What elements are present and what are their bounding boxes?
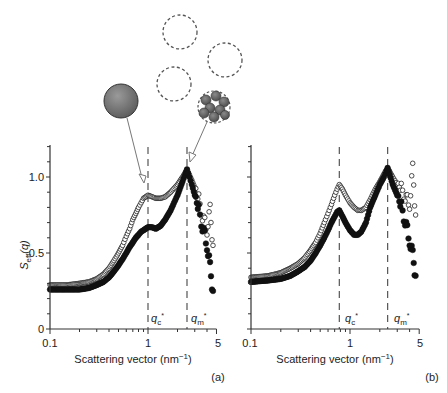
- panel-label-b: (b): [425, 371, 438, 383]
- ytick-label-1.0: 1.0: [29, 171, 44, 183]
- qc-label: qc*: [151, 312, 164, 327]
- y-axis-title: Seff(q): [18, 240, 33, 270]
- data-point: [202, 228, 208, 234]
- qm-label: qm*: [394, 312, 410, 327]
- data-point: [208, 202, 213, 207]
- particle-cluster: [198, 91, 230, 123]
- dashed-circle-top: [163, 15, 197, 49]
- xtick-label-5: 5: [215, 337, 221, 349]
- data-point: [396, 193, 402, 199]
- ytick-label-0: 0: [38, 323, 44, 335]
- data-point: [210, 238, 215, 243]
- panel-label-a: (a): [211, 371, 224, 383]
- xtick-label-0.1: 0.1: [42, 337, 57, 349]
- panel-b-marks: [248, 147, 418, 329]
- data-point: [203, 215, 208, 220]
- data-point: [400, 208, 406, 214]
- data-point: [413, 213, 418, 218]
- data-point: [193, 194, 199, 200]
- xtick-label-5: 5: [417, 337, 423, 349]
- data-point: [410, 161, 415, 166]
- arrow-cluster-to-qm: [189, 122, 207, 162]
- data-point: [197, 212, 203, 218]
- data-point: [408, 194, 413, 199]
- data-point: [410, 247, 416, 253]
- xtick-label-1: 1: [347, 337, 353, 349]
- dashed-circle-right: [208, 43, 242, 77]
- data-point: [204, 247, 210, 253]
- data-point: [412, 204, 417, 209]
- x-axis-title: Scattering vector (nm−1): [276, 352, 393, 365]
- data-point: [207, 259, 213, 265]
- series-filled-circles: [248, 165, 418, 285]
- data-point: [411, 260, 417, 266]
- panel-a-marks: [47, 147, 216, 329]
- arrow-sphere-to-qc: [127, 118, 146, 183]
- data-point: [409, 174, 414, 179]
- data-point: [399, 199, 405, 205]
- data-point: [208, 273, 214, 279]
- data-point: [203, 241, 209, 247]
- data-point: [207, 210, 212, 215]
- dashed-circle-left: [157, 67, 191, 101]
- data-point: [211, 243, 216, 248]
- solid-sphere: [104, 84, 138, 118]
- data-point: [196, 202, 202, 208]
- xtick-label-0.1: 0.1: [242, 337, 257, 349]
- data-point: [210, 288, 216, 294]
- data-point: [413, 273, 419, 279]
- data-point: [400, 188, 405, 193]
- panel-b: 0.1 1 5 Scattering vector (nm−1) qc* qm*…: [242, 145, 438, 383]
- x-axis-title: Scattering vector (nm−1): [74, 352, 191, 365]
- qm-label: qm*: [191, 312, 207, 327]
- data-point: [407, 207, 412, 212]
- data-point: [206, 253, 212, 259]
- qc-label: qc*: [345, 312, 358, 327]
- data-point: [209, 220, 214, 225]
- data-point: [405, 222, 411, 228]
- data-point: [399, 181, 404, 186]
- panel-a: 0 0.5 1.0 0.1 1 5 Scattering vector (nm−…: [18, 145, 225, 383]
- data-point: [411, 183, 416, 188]
- illustration: [104, 15, 242, 183]
- xtick-label-1: 1: [145, 337, 151, 349]
- figure: 0 0.5 1.0 0.1 1 5 Scattering vector (nm−…: [0, 0, 447, 393]
- data-point: [406, 236, 412, 242]
